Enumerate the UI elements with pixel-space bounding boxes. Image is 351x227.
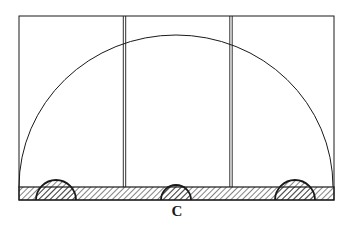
diagram-canvas [0,0,351,227]
small-semicircle-fill [36,180,76,200]
figure-label: C [172,203,183,220]
large-arch [19,35,333,187]
small-semicircle-fill [275,180,315,200]
frame-outline [19,16,334,200]
